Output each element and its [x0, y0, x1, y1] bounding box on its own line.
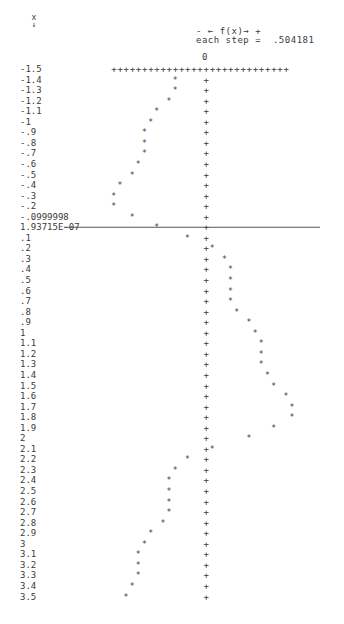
axis-plus-mark: + — [204, 286, 210, 296]
data-point: * — [117, 181, 122, 190]
ruler-plus-mark: + — [148, 64, 154, 74]
data-point: * — [283, 392, 288, 401]
axis-plus-mark: + — [204, 349, 210, 359]
data-point: * — [111, 202, 116, 211]
ruler-plus-mark: + — [111, 64, 117, 74]
ruler-plus-mark: + — [136, 64, 142, 74]
x-tick-label: 1.3 — [20, 359, 36, 369]
axis-plus-mark: + — [204, 475, 210, 485]
x-tick-label: -.2 — [20, 201, 36, 211]
data-point: * — [173, 86, 178, 95]
x-tick-label: 2.5 — [20, 486, 36, 496]
data-point: * — [259, 350, 264, 359]
x-tick-label: 1.6 — [20, 391, 36, 401]
ruler-plus-mark: + — [247, 64, 253, 74]
axis-plus-mark: + — [204, 338, 210, 348]
x-tick-label: -.6 — [20, 159, 36, 169]
x-tick-label: .2 — [20, 243, 31, 253]
axis-plus-mark: + — [204, 96, 210, 106]
axis-plus-mark: + — [204, 570, 210, 580]
data-point: * — [173, 76, 178, 85]
ruler-plus-mark: + — [240, 64, 246, 74]
x-tick-label: .1 — [20, 233, 31, 243]
axis-plus-mark: + — [204, 254, 210, 264]
axis-plus-mark: + — [204, 138, 210, 148]
data-point: * — [167, 97, 172, 106]
axis-plus-mark: + — [204, 507, 210, 517]
data-point: * — [167, 498, 172, 507]
axis-plus-mark: + — [204, 444, 210, 454]
data-point: * — [185, 234, 190, 243]
axis-plus-mark: + — [204, 148, 210, 158]
x-tick-label: -1.4 — [20, 75, 42, 85]
data-point: * — [259, 360, 264, 369]
x-tick-label: -1.3 — [20, 85, 42, 95]
x-tick-label: 2.3 — [20, 465, 36, 475]
axis-plus-mark: + — [204, 85, 210, 95]
data-point: * — [111, 192, 116, 201]
data-point: * — [130, 582, 135, 591]
axis-plus-mark: + — [204, 549, 210, 559]
x-tick-label: 2.9 — [20, 528, 36, 538]
x-tick-label: 1.9 — [20, 423, 36, 433]
ruler-plus-mark: + — [253, 64, 259, 74]
axis-plus-mark: + — [204, 75, 210, 85]
x-tick-label: -.9 — [20, 127, 36, 137]
ruler-plus-mark: + — [204, 64, 210, 74]
ascii-plot: +++++++++++++++++++++++++++++-1.5-1.4+*-… — [0, 0, 344, 624]
x-tick-label: 3.5 — [20, 592, 36, 602]
data-point: * — [290, 403, 295, 412]
axis-plus-mark: + — [204, 317, 210, 327]
data-point: * — [234, 308, 239, 317]
x-tick-label: -1 — [20, 117, 31, 127]
data-point: * — [247, 434, 252, 443]
ruler-plus-mark: + — [160, 64, 166, 74]
axis-plus-mark: + — [204, 328, 210, 338]
ruler-plus-mark: + — [265, 64, 271, 74]
axis-plus-mark: + — [204, 296, 210, 306]
x-tick-label: 3.1 — [20, 549, 36, 559]
axis-plus-mark: + — [204, 391, 210, 401]
data-point: * — [185, 455, 190, 464]
data-point: * — [154, 107, 159, 116]
x-tick-label: 3 — [20, 539, 25, 549]
ruler-plus-mark: + — [191, 64, 197, 74]
data-point: * — [142, 149, 147, 158]
data-point: * — [228, 297, 233, 306]
x-tick-label: -1.5 — [20, 64, 42, 74]
ruler-plus-mark: + — [197, 64, 203, 74]
x-tick-label: 1.5 — [20, 381, 36, 391]
ruler-plus-mark: + — [130, 64, 136, 74]
axis-plus-mark: + — [204, 402, 210, 412]
axis-plus-mark: + — [204, 497, 210, 507]
x-tick-label: 1.4 — [20, 370, 36, 380]
axis-plus-mark: + — [204, 465, 210, 475]
ruler-plus-mark: + — [167, 64, 173, 74]
axis-plus-mark: + — [204, 191, 210, 201]
ruler-plus-mark: + — [117, 64, 123, 74]
ruler-plus-mark: + — [259, 64, 265, 74]
x-tick-label: -.4 — [20, 180, 36, 190]
x-tick-label: 2.1 — [20, 444, 36, 454]
axis-plus-mark: + — [204, 201, 210, 211]
x-tick-label: -.3 — [20, 191, 36, 201]
x-tick-label: 1.7 — [20, 402, 36, 412]
ruler-plus-mark: + — [173, 64, 179, 74]
x-tick-label: -.0999998 — [20, 212, 69, 222]
axis-plus-mark: + — [204, 539, 210, 549]
ruler-plus-mark: + — [271, 64, 277, 74]
ruler-plus-mark: + — [185, 64, 191, 74]
axis-plus-mark: + — [204, 592, 210, 602]
data-point: * — [136, 571, 141, 580]
x-tick-label: 3.4 — [20, 581, 36, 591]
ruler-plus-mark: + — [179, 64, 185, 74]
ruler-plus-mark: + — [210, 64, 216, 74]
data-point: * — [210, 244, 215, 253]
x-tick-label: .4 — [20, 264, 31, 274]
axis-plus-mark: + — [204, 170, 210, 180]
x-tick-label: 2.7 — [20, 507, 36, 517]
ruler-plus-mark: + — [234, 64, 240, 74]
data-point: * — [228, 265, 233, 274]
x-tick-label: .9 — [20, 317, 31, 327]
data-point: * — [265, 371, 270, 380]
